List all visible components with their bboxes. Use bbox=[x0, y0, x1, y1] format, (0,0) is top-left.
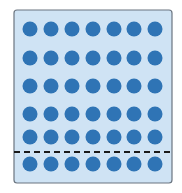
dot bbox=[23, 157, 38, 172]
dot bbox=[23, 79, 38, 94]
dot bbox=[65, 79, 80, 94]
dot bbox=[65, 130, 80, 145]
dot bbox=[127, 22, 142, 37]
dot bbox=[127, 79, 142, 94]
dot bbox=[107, 51, 122, 66]
dot bbox=[65, 157, 80, 172]
dot bbox=[23, 22, 38, 37]
dot bbox=[44, 22, 59, 37]
dot bbox=[44, 79, 59, 94]
dot bbox=[23, 107, 38, 122]
dot bbox=[107, 79, 122, 94]
dot bbox=[148, 157, 163, 172]
dot bbox=[148, 51, 163, 66]
dot bbox=[148, 22, 163, 37]
dot bbox=[148, 130, 163, 145]
dot bbox=[65, 22, 80, 37]
dot bbox=[107, 157, 122, 172]
dot bbox=[127, 107, 142, 122]
dot bbox=[44, 51, 59, 66]
dot bbox=[148, 107, 163, 122]
dot bbox=[127, 157, 142, 172]
dot bbox=[23, 51, 38, 66]
dot bbox=[127, 51, 142, 66]
dot bbox=[127, 130, 142, 145]
dot bbox=[86, 22, 101, 37]
dot bbox=[107, 130, 122, 145]
dot bbox=[23, 130, 38, 145]
dot bbox=[44, 130, 59, 145]
dot bbox=[86, 79, 101, 94]
dot-array-diagram bbox=[0, 0, 182, 193]
dot bbox=[86, 130, 101, 145]
dot bbox=[148, 79, 163, 94]
dot bbox=[65, 107, 80, 122]
dot bbox=[107, 22, 122, 37]
dot bbox=[44, 107, 59, 122]
dot bbox=[86, 157, 101, 172]
dot bbox=[86, 107, 101, 122]
dot bbox=[86, 51, 101, 66]
dot bbox=[65, 51, 80, 66]
dot bbox=[107, 107, 122, 122]
dot bbox=[44, 157, 59, 172]
